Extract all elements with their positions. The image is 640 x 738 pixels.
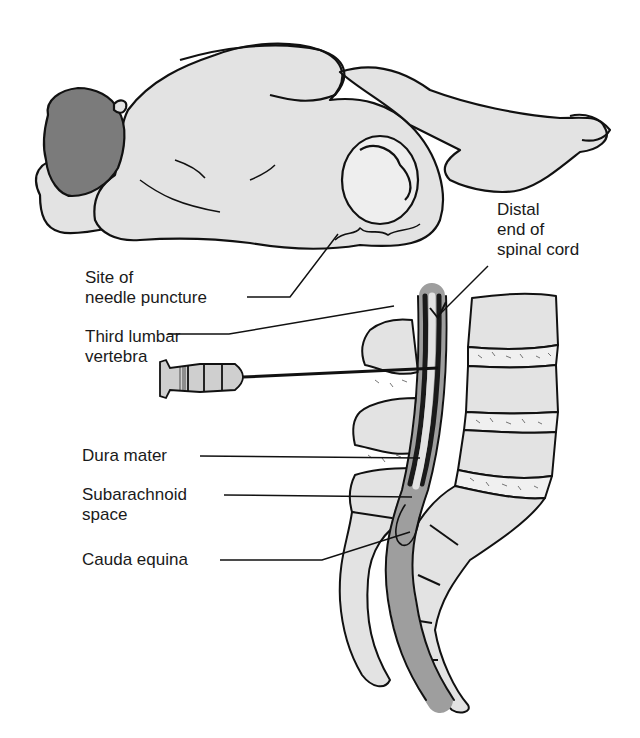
vertebral-body-3 <box>458 430 556 478</box>
ear <box>114 101 126 113</box>
posterior-processes <box>362 319 418 373</box>
label-cauda-equina: Cauda equina <box>82 550 188 570</box>
lumbar-puncture-diagram: Distal end of spinal cord Site of needle… <box>0 0 640 738</box>
label-subarachnoid-space: Subarachnoid space <box>82 485 187 525</box>
leader-third-lumbar <box>168 306 394 334</box>
label-distal-end-spinal-cord: Distal end of spinal cord <box>497 200 579 260</box>
spinal-column <box>340 294 558 713</box>
leader-dura-mater <box>200 456 420 458</box>
illustration <box>0 0 640 738</box>
vertebral-body-2 <box>466 365 558 414</box>
label-third-lumbar-vertebra: Third lumbar vertebra <box>85 327 180 367</box>
pelvis <box>342 136 418 224</box>
intervertebral-disc-2 <box>464 412 558 433</box>
label-dura-mater: Dura mater <box>82 446 167 466</box>
intervertebral-disc-1 <box>468 345 558 367</box>
label-needle-puncture-site: Site of needle puncture <box>85 268 207 308</box>
vertebral-body-1 <box>468 294 558 349</box>
